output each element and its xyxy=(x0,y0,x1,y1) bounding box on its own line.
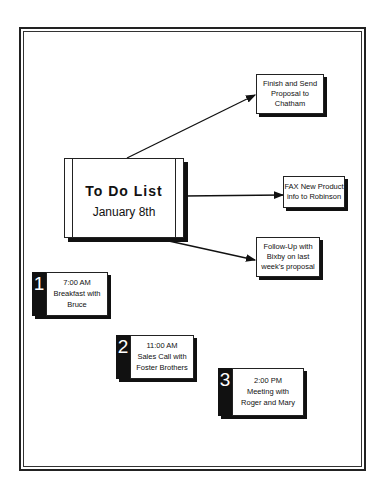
task-note: Finish and Send Proposal to Chatham xyxy=(256,74,324,114)
appointment-card: 3 2:00 PM Meeting with Roger and Mary xyxy=(218,368,304,416)
arrow-to-task-2 xyxy=(184,195,283,196)
appointment-number: 3 xyxy=(218,368,232,416)
task-line: Finish and Send xyxy=(257,79,323,89)
task-note: FAX New Product info to Robinson xyxy=(283,176,345,208)
list-title: To Do List xyxy=(65,183,183,199)
appointment-details: 2:00 PM Meeting with Roger and Mary xyxy=(232,368,304,416)
title-card-face: To Do List January 8th xyxy=(64,158,184,238)
task-line: Chatham xyxy=(257,99,323,109)
appointment-line: Meeting with xyxy=(233,386,303,397)
task-line: Follow-Up with xyxy=(257,242,319,252)
task-line: info to Robinson xyxy=(284,192,344,202)
appointment-details: 11:00 AM Sales Call with Foster Brothers xyxy=(130,335,194,379)
arrows-layer xyxy=(0,0,387,504)
appointment-line: Foster Brothers xyxy=(131,362,193,373)
appointment-time: 7:00 AM xyxy=(47,277,107,288)
appointment-time: 2:00 PM xyxy=(233,375,303,386)
list-date: January 8th xyxy=(65,205,183,219)
task-line: FAX New Product xyxy=(284,182,344,192)
task-line: Bixby on last xyxy=(257,252,319,262)
appointment-card: 2 11:00 AM Sales Call with Foster Brothe… xyxy=(116,335,194,379)
task-line: week's proposal xyxy=(257,262,319,272)
task-line: Proposal to xyxy=(257,89,323,99)
appointment-details: 7:00 AM Breakfast with Bruce xyxy=(46,272,108,316)
appointment-number: 2 xyxy=(116,335,130,379)
appointment-line: Breakfast with xyxy=(47,288,107,299)
appointment-number: 1 xyxy=(32,272,46,316)
task-note: Follow-Up with Bixby on last week's prop… xyxy=(256,237,320,277)
appointment-card: 1 7:00 AM Breakfast with Bruce xyxy=(32,272,108,316)
appointment-line: Roger and Mary xyxy=(233,397,303,408)
title-card: To Do List January 8th xyxy=(64,158,184,238)
appointment-time: 11:00 AM xyxy=(131,340,193,351)
appointment-line: Bruce xyxy=(47,299,107,310)
appointment-line: Sales Call with xyxy=(131,351,193,362)
arrow-to-task-1 xyxy=(127,95,255,158)
